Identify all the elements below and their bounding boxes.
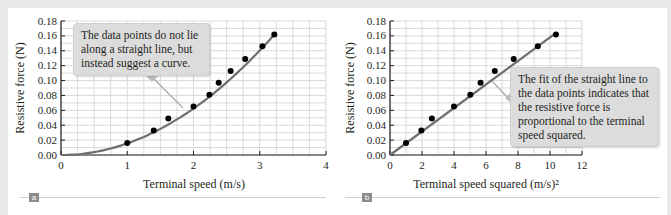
callout-b: The fit of the straight line to the data…	[510, 67, 659, 147]
x-tick-label: 3	[257, 159, 263, 171]
x-tick-label: 8	[515, 159, 521, 171]
y-tick-label: 0.14	[38, 44, 58, 56]
y-tick-label: 0.04	[38, 119, 58, 131]
callout-a: The data points do not lie along a strai…	[73, 23, 210, 76]
y-tick-label: 0.00	[367, 149, 387, 161]
data-point	[429, 116, 435, 122]
data-point	[535, 43, 541, 49]
data-point	[492, 68, 498, 74]
data-point	[151, 127, 157, 133]
data-point	[511, 56, 517, 62]
x-tick-label: 6	[483, 159, 489, 171]
data-point	[206, 92, 212, 98]
x-tick-label: 2	[191, 159, 197, 171]
data-point	[191, 104, 197, 110]
y-tick-label: 0.06	[367, 104, 387, 116]
x-axis-label: Terminal speed (m/s)	[143, 177, 245, 191]
panel-badge-a: a	[29, 193, 39, 202]
divider-a	[20, 197, 326, 198]
data-point	[271, 31, 277, 37]
x-tick-label: 4	[451, 159, 457, 171]
y-tick-label: 0.16	[38, 29, 58, 41]
y-tick-label: 0.16	[367, 29, 387, 41]
x-axis-label: Terminal speed squared (m/s)²	[413, 177, 559, 191]
panel-badge-b: b	[362, 193, 372, 202]
y-tick-label: 0.10	[367, 74, 387, 86]
x-tick-label: 12	[577, 159, 588, 171]
y-tick-label: 0.04	[367, 119, 387, 131]
y-tick-label: 0.14	[367, 44, 387, 56]
data-point	[228, 68, 234, 74]
x-tick-label: 1	[125, 159, 131, 171]
data-point	[478, 80, 484, 86]
y-tick-label: 0.08	[38, 89, 58, 101]
data-point	[451, 104, 457, 110]
y-tick-label: 0.12	[38, 59, 57, 71]
data-point	[467, 92, 473, 98]
y-tick-label: 0.00	[38, 149, 58, 161]
y-tick-label: 0.18	[367, 15, 387, 27]
x-tick-label: 10	[545, 159, 557, 171]
y-tick-label: 0.10	[38, 74, 58, 86]
x-tick-label: 2	[419, 159, 425, 171]
x-tick-label: 4	[323, 159, 329, 171]
y-tick-label: 0.02	[38, 134, 57, 146]
data-point	[216, 80, 222, 86]
data-point	[259, 43, 265, 49]
y-tick-label: 0.06	[38, 104, 58, 116]
y-tick-label: 0.08	[367, 89, 387, 101]
data-point	[418, 127, 424, 133]
data-point	[165, 116, 171, 122]
y-axis-label: Resistive force (N)	[343, 42, 357, 133]
x-tick-label: 0	[58, 159, 64, 171]
y-tick-label: 0.02	[367, 134, 386, 146]
y-axis-label: Resistive force (N)	[13, 42, 27, 133]
data-point	[124, 140, 130, 146]
data-point	[242, 56, 248, 62]
y-tick-label: 0.12	[367, 59, 386, 71]
x-tick-label: 0	[387, 159, 393, 171]
divider-b	[345, 197, 660, 198]
data-point	[553, 31, 559, 37]
y-tick-label: 0.18	[38, 15, 58, 27]
data-point	[403, 140, 409, 146]
